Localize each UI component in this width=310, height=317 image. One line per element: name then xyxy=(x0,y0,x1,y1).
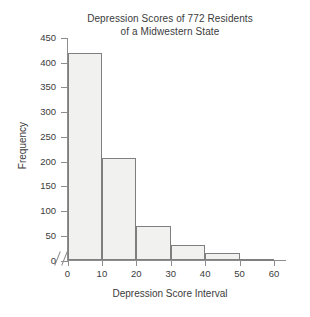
histogram-bar xyxy=(205,253,239,260)
x-axis-tick xyxy=(68,260,69,266)
x-axis-tick-label: 30 xyxy=(159,269,183,279)
y-axis-tick xyxy=(61,236,68,237)
x-axis-tick xyxy=(205,260,206,266)
y-axis-tick xyxy=(61,162,68,163)
histogram-bar xyxy=(136,226,170,261)
x-axis-tick xyxy=(102,260,103,266)
histogram-bar xyxy=(68,53,102,261)
y-axis-tick xyxy=(61,63,68,64)
x-axis-tick-label: 60 xyxy=(262,269,286,279)
y-axis-tick xyxy=(61,186,68,187)
x-axis-tick xyxy=(171,260,172,266)
y-axis-tick xyxy=(61,112,68,113)
y-axis-tick-label: 350 xyxy=(26,82,56,91)
x-axis-tick-label: 40 xyxy=(193,269,217,279)
x-axis-tick xyxy=(136,260,137,266)
y-axis-tick xyxy=(61,137,68,138)
x-axis-tick-label: 10 xyxy=(90,269,114,279)
y-axis-tick-label: 400 xyxy=(26,58,56,67)
histogram-bar xyxy=(240,259,274,261)
x-axis-tick xyxy=(240,260,241,266)
y-axis-tick-label: 200 xyxy=(26,157,56,166)
x-axis-tick-label: 50 xyxy=(228,269,252,279)
y-axis-tick-label: 0 xyxy=(26,256,56,265)
x-axis-tick-label: 0 xyxy=(56,269,80,279)
histogram-figure: Depression Scores of 772 Residents of a … xyxy=(0,0,310,317)
x-axis-tick xyxy=(274,260,275,266)
y-axis-tick-label: 100 xyxy=(26,206,56,215)
histogram-bar xyxy=(171,245,205,261)
histogram-bar xyxy=(102,158,136,261)
y-axis-tick xyxy=(61,87,68,88)
y-axis-tick xyxy=(61,211,68,212)
y-axis-tick-label: 450 xyxy=(26,33,56,42)
y-axis-tick-label: 50 xyxy=(26,231,56,240)
y-axis-tick xyxy=(61,38,68,39)
plot-area: 050100150200250300350400450 010203040506… xyxy=(0,0,310,317)
y-axis-tick-label: 150 xyxy=(26,181,56,190)
x-axis-tick-label: 20 xyxy=(124,269,148,279)
y-axis-tick-label: 300 xyxy=(26,107,56,116)
y-axis-tick-label: 250 xyxy=(26,132,56,141)
